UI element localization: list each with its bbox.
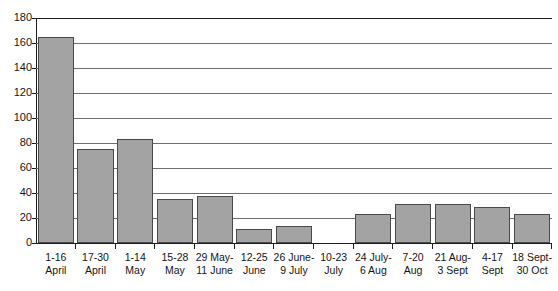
y-axis-tick-mark (32, 118, 36, 119)
x-axis-line (36, 243, 552, 244)
bar (117, 139, 153, 243)
x-axis-tick-label-line1: 18 Sept- (508, 251, 556, 264)
y-axis-tick-mark (32, 18, 36, 19)
y-axis-tick-mark (32, 143, 36, 144)
x-axis-tick-mark (353, 244, 354, 249)
y-axis-tick-label: 120 (0, 86, 32, 98)
x-axis-tick-label: 18 Sept-30 Oct (508, 251, 556, 276)
y-axis-tick-label: 0 (0, 236, 32, 248)
y-axis-tick-label: 60 (0, 161, 32, 173)
y-axis-tick-label: 40 (0, 186, 32, 198)
gridline (36, 118, 552, 119)
y-axis-tick-mark (32, 43, 36, 44)
x-axis-tick-mark (234, 244, 235, 249)
bar (395, 204, 431, 243)
y-axis-tick-mark (32, 68, 36, 69)
x-axis-tick-mark (551, 244, 552, 249)
x-axis-tick-mark (115, 244, 116, 249)
y-axis-tick-mark (32, 93, 36, 94)
bar (474, 207, 510, 243)
bar (276, 226, 312, 244)
gridline (36, 93, 552, 94)
x-axis-tick-mark (273, 244, 274, 249)
x-axis-tick-mark (313, 244, 314, 249)
x-axis-tick-mark (194, 244, 195, 249)
y-axis-tick-mark (32, 193, 36, 194)
x-axis-tick-mark (432, 244, 433, 249)
bar-chart-figure: 020406080100120140160180 1-16April17-30A… (0, 0, 558, 291)
gridline (36, 68, 552, 69)
x-axis-tick-label-line2: 30 Oct (508, 264, 556, 277)
bar (236, 229, 272, 243)
y-axis-tick-label: 100 (0, 111, 32, 123)
bar (514, 214, 550, 243)
y-axis-tick-label: 160 (0, 36, 32, 48)
bar (38, 37, 74, 243)
x-axis-tick-mark (75, 244, 76, 249)
gridline (36, 43, 552, 44)
plot-area (36, 18, 552, 243)
y-axis-tick-mark (32, 168, 36, 169)
bar (435, 204, 471, 243)
bar (77, 149, 113, 243)
y-axis-tick-label: 20 (0, 211, 32, 223)
gridline (36, 143, 552, 144)
x-axis-tick-mark (154, 244, 155, 249)
gridline (36, 18, 552, 19)
bar (197, 196, 233, 244)
x-axis-tick-mark (512, 244, 513, 249)
x-axis-tick-mark (472, 244, 473, 249)
y-axis-tick-label: 140 (0, 61, 32, 73)
bar (157, 199, 193, 243)
y-axis-tick-mark (32, 243, 36, 244)
y-axis-tick-label: 180 (0, 11, 32, 23)
bar (355, 214, 391, 243)
x-axis-tick-mark (392, 244, 393, 249)
y-axis-tick-label: 80 (0, 136, 32, 148)
y-axis-tick-mark (32, 218, 36, 219)
